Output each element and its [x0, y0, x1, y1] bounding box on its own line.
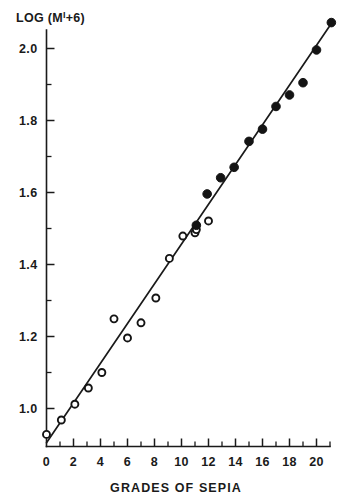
data-point-open — [166, 255, 173, 262]
regression-line — [47, 22, 333, 443]
x-tick-label: 10 — [174, 455, 189, 469]
data-point-filled — [327, 18, 336, 27]
x-tick-label: 6 — [124, 455, 131, 469]
x-tick-label: 14 — [228, 455, 243, 469]
x-axis-ticks — [60, 439, 330, 447]
data-point-filled — [245, 137, 254, 146]
x-tick-label: 2 — [70, 455, 77, 469]
y-tick-label: 2.0 — [19, 42, 38, 56]
x-axis-title: GRADES OF SEPIA — [110, 481, 242, 495]
data-point-open — [58, 417, 65, 424]
data-point-open — [124, 334, 131, 341]
y-axis-title: LOG (MI+6) — [16, 10, 85, 26]
data-point-filled — [312, 46, 321, 55]
fit-line — [47, 22, 333, 443]
data-point-open — [111, 315, 118, 322]
data-point-filled — [216, 173, 225, 182]
y-title-suffix: +6) — [66, 11, 85, 25]
data-point-filled — [299, 78, 308, 87]
x-tick-label: 8 — [151, 455, 158, 469]
x-tick-label: 18 — [282, 455, 297, 469]
scatter-plot: LOG (MI+6) 1.01.21.41.61.82.0 0246810121… — [0, 0, 346, 503]
y-tick-label: 1.2 — [19, 330, 38, 344]
data-point-filled — [230, 163, 239, 172]
data-point-open — [179, 233, 186, 240]
y-title-prefix: LOG (M — [16, 11, 63, 25]
data-point-filled — [203, 190, 212, 199]
data-point-open — [205, 217, 212, 224]
x-tick-label: 20 — [309, 455, 324, 469]
data-point-open — [43, 431, 50, 438]
x-tick-label: 16 — [255, 455, 270, 469]
data-point-open — [152, 294, 159, 301]
series-open-circles — [43, 217, 212, 437]
x-tick-label: 12 — [201, 455, 216, 469]
y-axis-tick-labels: 1.01.21.41.61.82.0 — [19, 42, 38, 416]
x-axis-tick-labels: 02468101214161820 — [43, 455, 324, 469]
data-point-filled — [192, 221, 201, 230]
chart-figure: LOG (MI+6) 1.01.21.41.61.82.0 0246810121… — [0, 0, 346, 503]
x-tick-label: 4 — [97, 455, 104, 469]
data-point-filled — [272, 102, 281, 111]
y-axis-ticks — [47, 49, 55, 409]
y-tick-label: 1.0 — [19, 402, 38, 416]
x-tick-label: 0 — [43, 455, 50, 469]
data-point-open — [71, 401, 78, 408]
data-point-open — [98, 369, 105, 376]
data-point-open — [138, 319, 145, 326]
data-point-filled — [285, 91, 294, 100]
y-tick-label: 1.4 — [19, 258, 38, 272]
data-point-filled — [258, 125, 267, 134]
data-point-open — [85, 384, 92, 391]
y-tick-label: 1.6 — [19, 186, 38, 200]
y-tick-label: 1.8 — [19, 114, 38, 128]
